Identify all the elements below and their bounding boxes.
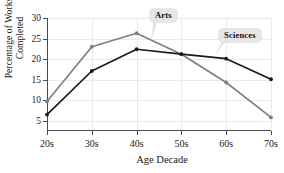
annotation-arts: Arts	[150, 9, 177, 22]
x-axis-tick	[271, 131, 272, 135]
data-point-arts-30s	[90, 45, 94, 49]
data-point-sciences-60s	[224, 57, 228, 61]
x-axis-tick-label: 70s	[264, 138, 278, 149]
x-axis-tick	[181, 131, 182, 135]
data-point-arts-40s	[135, 31, 139, 35]
line-chart: Percentage of Works Completed 5101520253…	[0, 0, 284, 173]
gridline-vertical	[271, 18, 272, 131]
x-axis-tick-label: 50s	[174, 138, 188, 149]
data-point-arts-60s	[224, 81, 228, 85]
series-line-sciences	[47, 49, 271, 114]
x-axis-title: Age Decade	[40, 154, 284, 165]
y-axis-tick-label: 20	[32, 54, 42, 64]
data-point-sciences-20s	[45, 113, 49, 117]
x-axis-tick	[137, 131, 138, 135]
data-point-sciences-50s	[180, 52, 184, 56]
y-axis-tick-label: 25	[32, 34, 42, 44]
y-axis-tick-label: 10	[32, 95, 42, 105]
series-line-arts	[47, 33, 271, 117]
annotation-sciences: Sciences	[219, 29, 261, 42]
x-axis-tick	[47, 131, 48, 135]
data-point-sciences-70s	[269, 77, 273, 81]
data-point-sciences-40s	[135, 47, 139, 51]
x-axis-tick-label: 20s	[40, 138, 54, 149]
y-axis-title-line-1: Percentage of Works	[4, 0, 15, 93]
y-axis-tick-label: 5	[36, 116, 41, 126]
data-point-arts-70s	[269, 116, 273, 120]
data-point-arts-20s	[45, 100, 49, 104]
data-point-sciences-30s	[90, 69, 94, 73]
y-axis-tick-label: 15	[32, 75, 42, 85]
x-axis-tick	[226, 131, 227, 135]
y-axis-title: Percentage of Works Completed	[4, 0, 26, 93]
x-axis-tick-label: 60s	[219, 138, 233, 149]
y-axis-tick-label: 30	[32, 13, 42, 23]
x-axis-tick-label: 30s	[85, 138, 99, 149]
y-axis-title-line-2: Completed	[15, 0, 26, 93]
x-axis-tick	[92, 131, 93, 135]
x-axis-tick-label: 40s	[130, 138, 144, 149]
